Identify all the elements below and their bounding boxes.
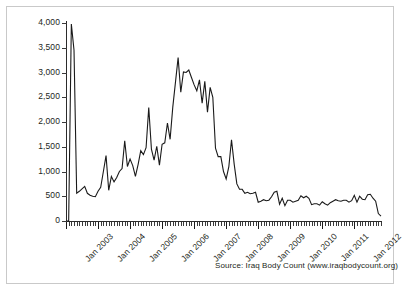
y-tick-mark <box>62 23 67 24</box>
y-tick-mark <box>62 147 67 148</box>
source-note: Source: Iraq Body Count (www.iraqbodycou… <box>215 261 398 270</box>
y-tick-mark <box>62 196 67 197</box>
y-tick-mark <box>62 73 67 74</box>
y-tick-mark <box>62 172 67 173</box>
y-tick-mark <box>62 97 67 98</box>
y-tick-mark <box>62 122 67 123</box>
chart-figure: 05001,0001,5002,0002,5003,0003,5004,000 … <box>0 0 413 298</box>
y-tick-mark <box>62 221 67 222</box>
line-series-iraq-body-count <box>0 0 413 298</box>
y-tick-mark <box>62 48 67 49</box>
data-polyline <box>66 24 381 221</box>
